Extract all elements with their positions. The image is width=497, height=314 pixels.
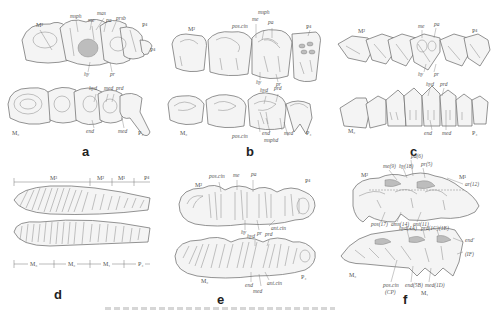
panel-b-label-lower-m2: M₂: [180, 130, 187, 136]
panel-f-cusp-pr5: pr(5): [421, 162, 432, 168]
panel-b-label-lower-p4: P₄: [306, 130, 311, 136]
panel-b-lower-teeth: [168, 93, 312, 134]
panel-f-cusp-pos-cin: pos.cin: [383, 283, 399, 289]
panel-e-cusp-prd: prd: [265, 232, 272, 238]
panel-f-label-lower-m2: M₂: [349, 272, 356, 278]
panel-d-scale-p4-upper: P⁴: [142, 175, 151, 181]
panel-c-cusp-me: me: [418, 24, 424, 30]
panel-f-cusp-if: (IF): [465, 252, 474, 258]
panel-f-cusp-cp: (CP): [385, 290, 396, 296]
panel-b-cusp-med: med: [284, 131, 293, 137]
panel-d: M³ M² M¹ P⁴ M₃ M₂ M₁ P₄ d: [0, 170, 160, 310]
panel-c-drawing: [330, 0, 497, 145]
panel-d-scale-m3-lower: M₃: [28, 261, 39, 267]
panel-d-scale-m1-lower: M₁: [101, 261, 112, 267]
panel-c-label-upper-p4: P⁴: [472, 28, 477, 34]
panel-f-label-lower-m1: M₁: [421, 290, 428, 296]
panel-b-cusp-me: me: [252, 17, 258, 23]
panel-e-cusp-hyd: hyd: [247, 234, 255, 240]
panel-e: M² P⁴ pos.cin me pa hy pr ant.cin hyd pr…: [165, 160, 325, 310]
panel-d-upper-scale: [14, 178, 150, 186]
panel-f-cusp-prd1c: prd(1C): [421, 226, 439, 232]
panel-c-cusp-hy: hy: [418, 72, 423, 78]
panel-c-cusp-end: end: [424, 131, 432, 137]
panel-e-cusp-pos-cin: pos.cin: [209, 174, 225, 180]
panel-f-lower-teeth: [341, 228, 463, 276]
panel-a-cusp-msph: msph: [70, 14, 82, 20]
panel-a-cusp-med-top: med: [104, 86, 113, 92]
panel-f-label-upper-m1: M¹: [459, 174, 466, 180]
panel-c-upper-teeth: [338, 34, 490, 70]
panel-e-cusp-hy: hy: [241, 230, 246, 236]
panel-e-cusp-me: me: [233, 173, 239, 179]
panel-a-label-lower-m2: M₂: [12, 130, 19, 136]
panel-b-cusp-end: end: [262, 131, 270, 137]
panel-a-cusp-pr: pr: [110, 72, 115, 78]
panel-e-cusp-med: med: [253, 289, 262, 295]
panel-a-lower-teeth: [8, 87, 150, 135]
panel-f-drawing: [325, 150, 497, 290]
panel-c-label-lower-p4: P₄: [472, 130, 477, 136]
panel-e-label-lower-m2: M₂: [201, 278, 208, 284]
panel-b-cusp-pos-cin-lower: pos.cin: [232, 134, 248, 140]
panel-a-cusp-med-bottom: med: [118, 129, 127, 135]
panel-b-upper-teeth: [172, 30, 321, 82]
panel-e-cusp-ant-cin-lower: ant.cin: [267, 281, 282, 287]
panel-e-cusp-pa: pa: [251, 172, 257, 178]
panel-e-label-upper-m2: M²: [195, 182, 202, 188]
panel-e-cusp-pr: pr: [257, 231, 262, 237]
panel-d-letter: d: [54, 288, 62, 301]
panel-a-label-lower-p4: P₄: [138, 130, 143, 136]
panel-b-cusp-msph: msph: [258, 10, 270, 16]
panel-c-lower-teeth: [340, 86, 488, 128]
panel-e-label-upper-p4: P⁴: [305, 178, 310, 184]
panel-b-cusp-prd: prd: [274, 86, 281, 92]
panel-f-cusp-pos17: pos(17): [371, 222, 388, 228]
panel-a-cusp-hyd: hyd: [89, 86, 97, 92]
panel-c-cusp-pr: pr: [434, 72, 439, 78]
panel-a: M² P⁴ P⁴ msph mas me pa prsb hy pr hyd m…: [0, 0, 165, 160]
panel-a-cusp-prd: prd: [116, 86, 123, 92]
panel-a-letter: a: [82, 145, 89, 158]
panel-b-drawing: [160, 0, 330, 145]
panel-b-cusp-msphd: msphd: [264, 138, 278, 144]
panel-e-label-lower-p4: P₄: [301, 274, 306, 280]
panel-f-cusp-ar12: ar(12): [465, 182, 479, 188]
panel-b: M² P⁴ msph me pos.cin pa hy pr hyd prd p…: [160, 0, 330, 160]
panel-f-cusp-me9: me(9): [383, 164, 396, 170]
panel-d-drawing: [0, 170, 160, 290]
panel-a-label-upper-p4-top: P⁴: [142, 22, 147, 28]
panel-b-cusp-hyd: hyd: [260, 88, 268, 94]
panel-f: M² M¹ pa(6) me(9) hy(18) pr(5) ar(12) po…: [325, 150, 497, 310]
panel-c-cusp-hyd: hyd: [426, 82, 434, 88]
panel-b-cusp-hy: hy: [256, 80, 261, 86]
panel-b-cusp-pa: pa: [268, 20, 274, 26]
panel-c-label-lower-m2: M₂: [348, 128, 355, 134]
panel-d-scale-m2-lower: M₂: [66, 261, 77, 267]
panel-d-scale-p4-lower: P₄: [136, 261, 145, 267]
panel-f-cusp-end-prime: end': [465, 238, 474, 244]
panel-d-lower-teeth: [14, 220, 150, 246]
panel-a-cusp-mas: mas: [97, 11, 106, 17]
panel-e-cusp-end: end: [245, 283, 253, 289]
panel-f-letter: f: [403, 293, 407, 306]
panel-a-cusp-hy: hy: [84, 72, 89, 78]
panel-a-cusp-pa: pa: [106, 18, 112, 24]
panel-d-scale-m3-upper: M³: [48, 175, 59, 181]
panel-f-upper-teeth: [353, 173, 479, 222]
panel-a-label-upper-m2: M²: [36, 22, 43, 28]
panel-b-label-upper-p4: P⁴: [306, 24, 311, 30]
panel-f-cusp-1e: (1E): [439, 226, 449, 232]
panel-c: M² P⁴ me pa hy pr hyd prd end med M₂ P₄ …: [330, 0, 497, 160]
panel-d-scale-m2-upper: M²: [95, 175, 106, 181]
panel-c-cusp-prd: prd: [440, 82, 447, 88]
panel-b-label-upper-m2: M²: [188, 26, 195, 32]
panel-d-scale-m1-upper: M¹: [116, 175, 127, 181]
panel-f-cusp-end5b: end(5B): [405, 283, 423, 289]
panel-f-cusp-med1d: med(1D): [425, 283, 445, 289]
figure-caption-cropped: [105, 307, 335, 310]
panel-c-cusp-med: med: [442, 131, 451, 137]
panel-c-label-upper-m2: M²: [358, 28, 365, 34]
panel-c-cusp-pa: pa: [434, 22, 440, 28]
panel-f-cusp-hy18: hy(18): [399, 164, 413, 170]
